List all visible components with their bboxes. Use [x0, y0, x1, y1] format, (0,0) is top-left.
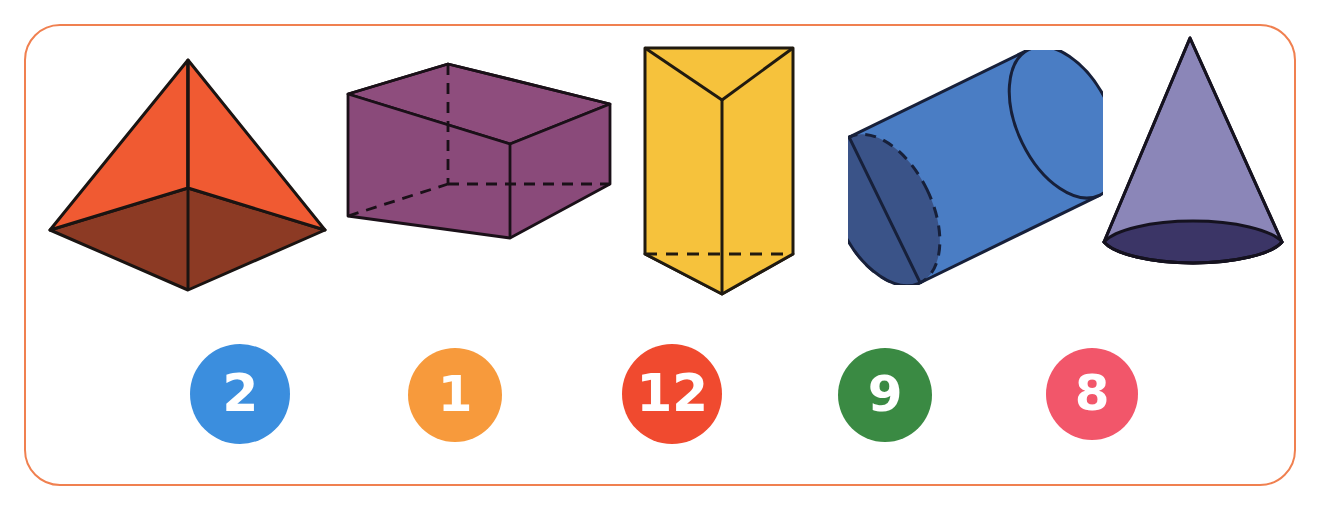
number-token-1[interactable]: 1 [408, 348, 502, 442]
number-token-1-label: 1 [438, 369, 472, 419]
number-token-12-label: 12 [636, 367, 707, 419]
worksheet-canvas: 2 1 12 9 8 [0, 0, 1322, 505]
number-token-8-label: 8 [1075, 368, 1109, 418]
number-token-8[interactable]: 8 [1046, 348, 1138, 440]
number-token-9[interactable]: 9 [838, 348, 932, 442]
number-token-2-label: 2 [222, 367, 258, 419]
number-tokens-row: 2 1 12 9 8 [0, 334, 1322, 454]
number-token-9-label: 9 [868, 369, 902, 419]
number-token-2[interactable]: 2 [190, 344, 290, 444]
number-token-12[interactable]: 12 [622, 344, 722, 444]
